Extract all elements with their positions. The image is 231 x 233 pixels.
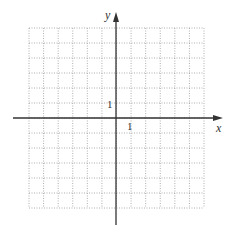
y-axis-arrow-icon xyxy=(113,12,119,22)
x-tick-label: 1 xyxy=(127,120,133,132)
x-axis xyxy=(13,115,223,121)
y-tick-label: 1 xyxy=(107,98,113,110)
x-axis-label: x xyxy=(215,121,222,135)
coordinate-plane: x y 1 1 xyxy=(0,0,231,233)
y-axis-label: y xyxy=(104,8,111,22)
